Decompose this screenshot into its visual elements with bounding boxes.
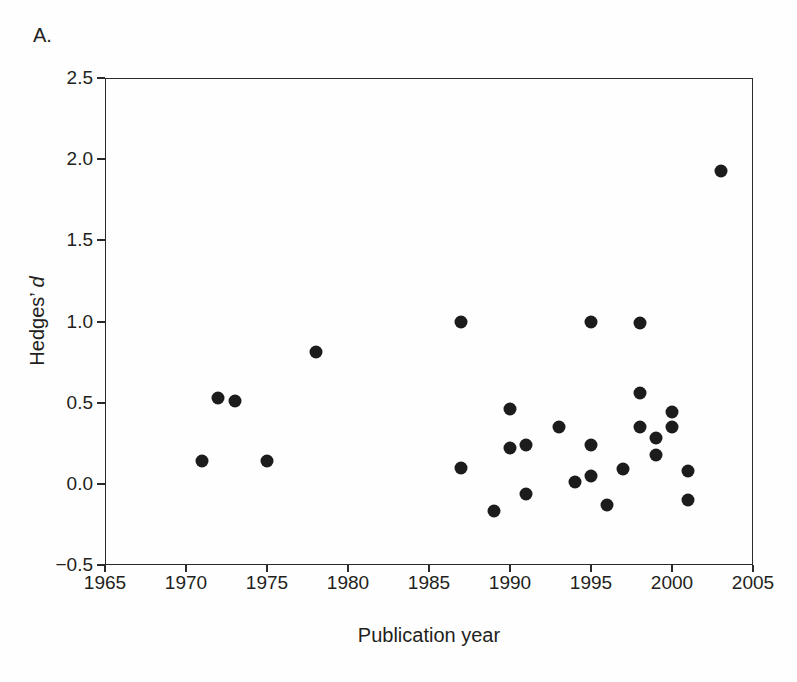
data-point: [455, 315, 468, 328]
x-axis-tick-label: 1975: [246, 572, 288, 594]
data-point: [649, 432, 662, 445]
y-axis-tick-label: 1.5: [23, 229, 93, 251]
x-axis-tick: [509, 565, 511, 572]
y-axis-tick-label: 1.0: [23, 311, 93, 333]
data-point: [601, 498, 614, 511]
x-axis-tick-label: 1990: [489, 572, 531, 594]
x-axis-tick-label: 2005: [732, 572, 774, 594]
x-axis-tick: [266, 565, 268, 572]
x-axis-tick: [104, 565, 106, 572]
data-point: [666, 406, 679, 419]
data-point: [649, 448, 662, 461]
data-point: [504, 403, 517, 416]
x-axis-tick: [671, 565, 673, 572]
panel-label: A.: [33, 24, 52, 47]
x-axis-tick-label: 1995: [570, 572, 612, 594]
data-point: [212, 391, 225, 404]
scatter-figure: A. Hedges’ d 196519701975198019851990199…: [0, 0, 797, 682]
x-axis-tick: [347, 565, 349, 572]
x-axis-title: Publication year: [358, 624, 500, 647]
data-point: [633, 317, 646, 330]
data-point: [520, 487, 533, 500]
x-axis-tick: [590, 565, 592, 572]
y-axis-tick: [97, 239, 105, 241]
data-point: [309, 346, 322, 359]
data-point: [585, 315, 598, 328]
data-point: [552, 421, 565, 434]
y-axis-title-italic-d: d: [26, 276, 48, 287]
data-point: [196, 455, 209, 468]
data-point: [585, 469, 598, 482]
data-point: [633, 421, 646, 434]
data-point: [666, 421, 679, 434]
x-axis-tick: [185, 565, 187, 572]
data-point: [504, 442, 517, 455]
plot-area: [105, 78, 753, 565]
data-point: [714, 164, 727, 177]
x-axis-tick-label: 1970: [165, 572, 207, 594]
data-point: [520, 438, 533, 451]
x-axis-tick-label: 1985: [408, 572, 450, 594]
y-axis-tick-label: 0.5: [23, 392, 93, 414]
y-axis-tick: [97, 321, 105, 323]
data-point: [568, 476, 581, 489]
data-point: [682, 494, 695, 507]
x-axis-tick: [428, 565, 430, 572]
y-axis-tick-label: 2.5: [23, 67, 93, 89]
data-point: [682, 464, 695, 477]
x-axis-tick-label: 1980: [327, 572, 369, 594]
y-axis-tick-label: 2.0: [23, 148, 93, 170]
data-point: [228, 395, 241, 408]
data-point: [585, 438, 598, 451]
y-axis-tick-label: 0.0: [23, 473, 93, 495]
x-axis-tick-label: 2000: [651, 572, 693, 594]
x-axis-tick: [752, 565, 754, 572]
y-axis-tick: [97, 158, 105, 160]
y-axis-tick: [97, 483, 105, 485]
data-point: [487, 505, 500, 518]
y-axis-tick-label: −0.5: [23, 554, 93, 576]
data-point: [261, 455, 274, 468]
data-point: [633, 386, 646, 399]
data-point: [617, 463, 630, 476]
data-point: [455, 461, 468, 474]
y-axis-tick: [97, 77, 105, 79]
y-axis-tick: [97, 402, 105, 404]
y-axis-tick: [97, 564, 105, 566]
